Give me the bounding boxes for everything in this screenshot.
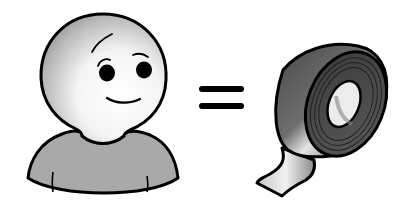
person-right-eye [136, 62, 152, 79]
person-left-eye [99, 65, 115, 82]
person-figure [28, 14, 178, 193]
tape-roll [257, 40, 401, 196]
illustration-scene [0, 0, 403, 218]
equals-sign [199, 86, 244, 109]
